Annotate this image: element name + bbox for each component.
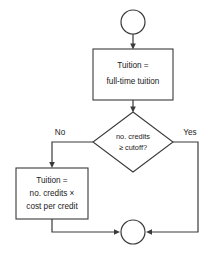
full-time-process-line2: full-time tuition	[107, 77, 160, 86]
edge-per-credit-to-end	[52, 219, 115, 232]
full-time-process-box	[93, 49, 173, 100]
decision-line2: ≥ cutoff?	[119, 143, 147, 152]
edge-yes-branch	[151, 142, 198, 232]
arrowhead-into-per-credit	[49, 162, 55, 168]
per-credit-process-line1: Tuition =	[36, 176, 68, 185]
branch-label-yes: Yes	[183, 128, 196, 137]
decision-line1: no. credits	[116, 132, 150, 141]
flowchart-canvas: Tuition = full-time tuition no. credits …	[0, 0, 214, 253]
arrowhead-no-into-end	[114, 229, 120, 235]
arrowhead-yes-into-end	[146, 229, 152, 235]
full-time-process-line1: Tuition =	[117, 61, 149, 70]
per-credit-process-line3: cost per credit	[26, 202, 78, 211]
branch-label-no: No	[55, 128, 66, 137]
start-connector	[121, 10, 145, 34]
per-credit-process-line2: no. credits ×	[30, 189, 75, 198]
flowchart-diagram: Tuition = full-time tuition no. credits …	[0, 0, 214, 253]
end-connector	[121, 220, 145, 244]
edge-no-branch	[52, 142, 93, 163]
